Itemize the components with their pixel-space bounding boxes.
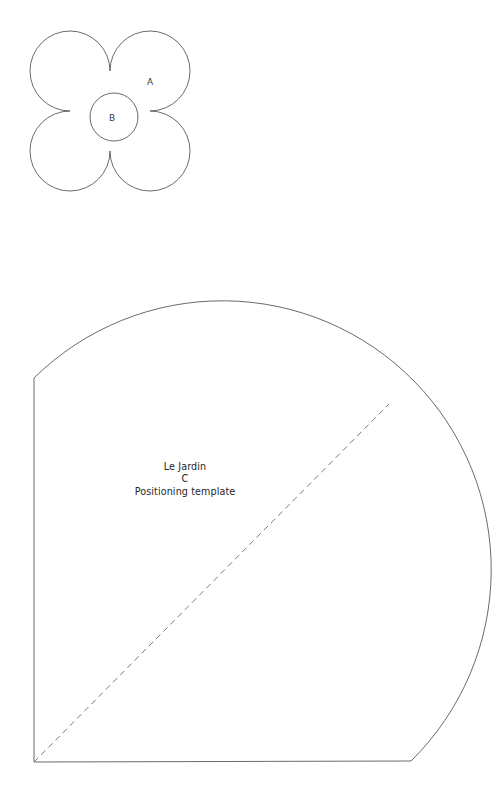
caption-line-title: Le Jardin	[0, 461, 370, 473]
positioning-template-piece	[34, 301, 491, 762]
caption-line-subtitle: Positioning template	[0, 486, 370, 498]
quatrefoil-flower-piece: A B	[30, 31, 190, 191]
dashed-diagonal-guide	[34, 404, 389, 762]
pattern-sheet: A B Le Jardin C Positioning template	[0, 0, 498, 798]
flower-inner-label-b: B	[109, 113, 115, 123]
caption-line-piece-letter: C	[0, 473, 370, 485]
quatrefoil-outline-path	[30, 31, 190, 191]
flower-outer-label-a: A	[147, 77, 154, 87]
pattern-drawing-canvas: A B	[0, 0, 498, 798]
template-caption: Le Jardin C Positioning template	[0, 461, 370, 498]
